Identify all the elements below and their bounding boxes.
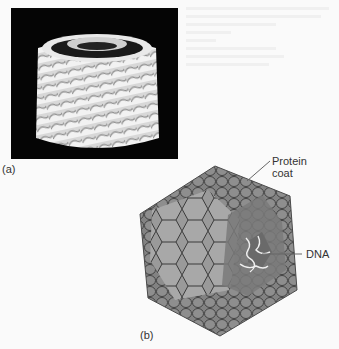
- protein-coat-label: Protein coat: [272, 155, 307, 179]
- panel-b-label: (b): [140, 329, 153, 341]
- protein-coat-line2: coat: [272, 167, 307, 179]
- protein-coat-leader-line: [247, 161, 270, 181]
- protein-coat-line1: Protein: [272, 155, 307, 167]
- dna-label: DNA: [306, 248, 329, 260]
